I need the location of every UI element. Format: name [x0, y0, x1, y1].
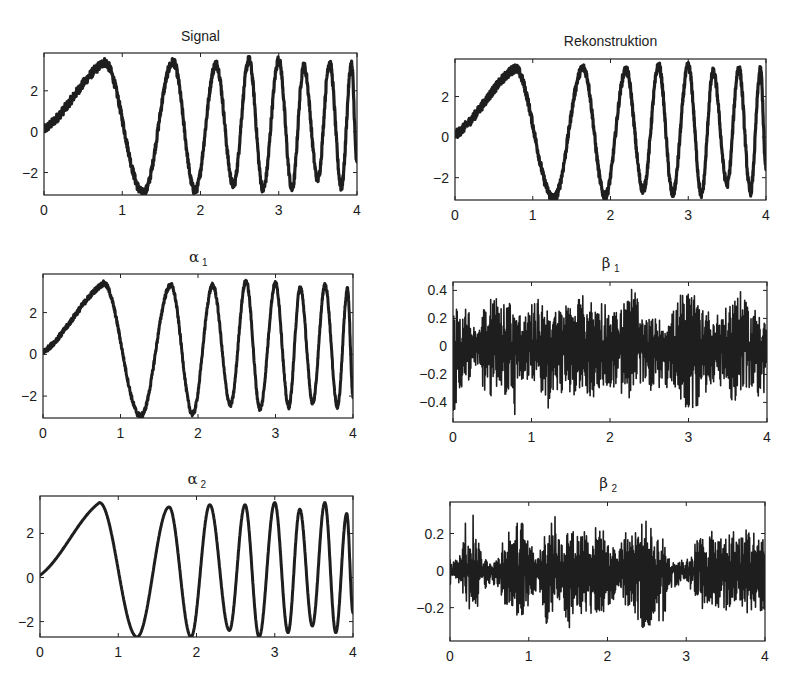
- x-tick-label: 2: [193, 644, 201, 660]
- y-tick-label: 2: [29, 305, 37, 321]
- subplot-title: Rekonstruktion: [564, 33, 657, 49]
- x-tick-label: 1: [529, 207, 537, 223]
- y-tick-label: 2: [30, 83, 38, 99]
- x-tick-label: 4: [353, 202, 361, 218]
- series-line: [450, 515, 765, 627]
- x-tick-label: 1: [117, 425, 125, 441]
- y-tick-label: −0.2: [419, 366, 447, 382]
- y-tick-label: 0: [436, 563, 444, 579]
- y-tick-label: −2: [21, 388, 37, 404]
- subplot-title: β: [602, 254, 611, 272]
- x-tick-label: 0: [451, 207, 459, 223]
- x-tick-label: 4: [349, 425, 357, 441]
- subplot-title: α: [189, 248, 199, 266]
- y-tick-label: 2: [26, 525, 34, 541]
- y-tick-label: 0.4: [428, 282, 448, 298]
- x-tick-label: 3: [275, 202, 283, 218]
- x-tick-label: 4: [349, 644, 357, 660]
- series-line: [453, 290, 767, 415]
- x-tick-label: 3: [682, 648, 690, 664]
- subplot-alpha1: α101234−202: [21, 248, 357, 441]
- y-tick-label: −2: [18, 614, 34, 630]
- x-tick-label: 0: [36, 644, 44, 660]
- y-tick-label: −2: [433, 170, 449, 186]
- x-tick-label: 2: [197, 202, 205, 218]
- subplot-signal: Signal01234−202: [22, 28, 361, 218]
- subplot-title-subscript: 1: [614, 263, 620, 274]
- x-tick-label: 1: [118, 202, 126, 218]
- y-tick-label: 0: [439, 338, 447, 354]
- y-tick-label: 0: [30, 124, 38, 140]
- x-tick-label: 0: [39, 425, 47, 441]
- y-tick-label: −0.2: [416, 600, 444, 616]
- subplot-beta2: β201234−0.200.2: [416, 474, 769, 664]
- y-tick-label: 0: [29, 346, 37, 362]
- x-tick-label: 2: [604, 648, 612, 664]
- subplot-title-subscript: 1: [202, 257, 208, 268]
- subplot-alpha2: α201234−202: [18, 470, 357, 660]
- x-tick-label: 1: [114, 644, 122, 660]
- x-tick-label: 3: [684, 207, 692, 223]
- subplot-rekonstruktion: Rekonstruktion01234−202: [433, 33, 770, 223]
- x-tick-label: 3: [271, 644, 279, 660]
- subplot-beta1: β101234−0.4−0.200.20.4: [419, 254, 771, 445]
- y-tick-label: 0.2: [425, 526, 445, 542]
- x-tick-label: 0: [446, 648, 454, 664]
- x-tick-label: 3: [272, 425, 280, 441]
- series-line: [43, 280, 353, 417]
- series-line: [40, 503, 353, 637]
- x-tick-label: 4: [762, 207, 770, 223]
- x-tick-label: 2: [607, 207, 615, 223]
- series-line: [44, 57, 357, 197]
- series-line: [455, 63, 766, 201]
- subplot-title-subscript: 2: [612, 483, 618, 494]
- x-tick-label: 0: [40, 202, 48, 218]
- y-tick-label: 0.2: [428, 310, 448, 326]
- subplot-title: Signal: [181, 28, 220, 44]
- x-tick-label: 4: [763, 429, 771, 445]
- y-tick-label: −2: [22, 165, 38, 181]
- x-tick-label: 1: [528, 429, 536, 445]
- subplot-title: α: [187, 470, 197, 488]
- y-tick-label: 2: [441, 89, 449, 105]
- subplot-title: β: [599, 474, 608, 492]
- y-tick-label: 0: [441, 129, 449, 145]
- x-tick-label: 4: [761, 648, 769, 664]
- y-tick-label: −0.4: [419, 394, 447, 410]
- x-tick-label: 0: [449, 429, 457, 445]
- x-tick-label: 3: [685, 429, 693, 445]
- x-tick-label: 2: [606, 429, 614, 445]
- x-tick-label: 1: [525, 648, 533, 664]
- x-tick-label: 2: [194, 425, 202, 441]
- figure: Signal01234−202Rekonstruktion01234−202α1…: [0, 0, 789, 692]
- subplot-title-subscript: 2: [201, 479, 207, 490]
- y-tick-label: 0: [26, 570, 34, 586]
